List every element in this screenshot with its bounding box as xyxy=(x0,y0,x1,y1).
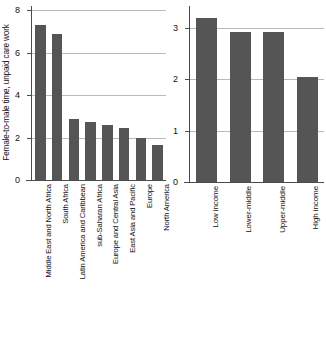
x-axis-line-left xyxy=(26,180,166,181)
bar xyxy=(119,128,129,180)
bar xyxy=(69,119,79,180)
y-tick: 0 xyxy=(27,180,32,181)
x-tick-label: Latin America and Caribbean xyxy=(78,184,88,279)
x-tick-label: Europe xyxy=(145,184,155,208)
y-tick-label: 1 xyxy=(173,126,178,135)
figure: Female-to-male time, unpaid care work 02… xyxy=(0,0,326,339)
x-tick-label: Upper-middle xyxy=(278,186,288,233)
bar xyxy=(52,34,62,180)
bar xyxy=(136,138,146,181)
y-axis-title-left: Female-to-male time, unpaid care work xyxy=(0,0,14,185)
x-tick-label: Middle East and North Africa xyxy=(44,184,54,277)
y-tick-label: 2 xyxy=(15,133,20,142)
chart-panel-left: Female-to-male time, unpaid care work 02… xyxy=(0,0,168,339)
bar xyxy=(263,32,284,182)
chart-panel-right: 1230 Low incomeLower-middleUpper-middleH… xyxy=(168,0,326,339)
x-tick-label: South Africa xyxy=(61,184,71,224)
bar xyxy=(196,18,217,182)
x-tick-label: Europe and Central Asia xyxy=(111,184,121,264)
y-tick-label: 4 xyxy=(15,91,20,100)
bar-series-right xyxy=(190,10,324,182)
bar xyxy=(102,125,112,180)
bar xyxy=(35,25,45,180)
y-tick-label: 0 xyxy=(173,178,178,187)
x-tick-label: High income xyxy=(311,186,321,229)
y-tick-label: 3 xyxy=(173,23,178,32)
bar xyxy=(230,32,251,182)
x-axis-line-right xyxy=(184,182,324,183)
plot-area-left: 02468 Middle East and North AfricaSouth … xyxy=(32,10,166,180)
x-tick-label: East Asia and Pacific xyxy=(128,184,138,253)
bar-series-left xyxy=(32,10,166,180)
bar xyxy=(297,77,318,182)
y-tick-label: 0 xyxy=(15,176,20,185)
plot-area-right: 1230 Low incomeLower-middleUpper-middleH… xyxy=(190,10,324,182)
bar xyxy=(85,122,95,180)
y-tick-label: 8 xyxy=(15,6,20,15)
y-tick-zero: 0 xyxy=(185,182,190,183)
x-tick-label: Lower-middle xyxy=(244,186,254,233)
x-tick-label: sub-Saharan Africa xyxy=(95,184,105,247)
bar xyxy=(152,145,162,180)
y-tick-label: 6 xyxy=(15,48,20,57)
y-tick-label: 2 xyxy=(173,75,178,84)
x-tick-label: Low income xyxy=(211,186,221,228)
